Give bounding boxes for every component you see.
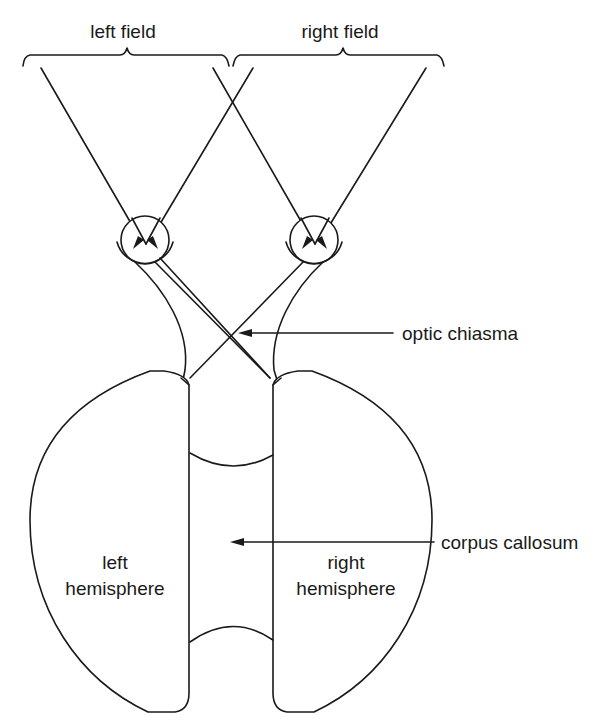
arrowhead-icon xyxy=(238,329,252,337)
left-hemisphere xyxy=(30,371,189,712)
arrowhead-icon xyxy=(230,538,244,546)
optic-chiasma-label: optic chiasma xyxy=(402,323,519,344)
diagram-canvas: left field right field xyxy=(0,0,616,726)
left-hemisphere-label-line2: hemisphere xyxy=(65,578,164,599)
ray-right-field-to-right-eye xyxy=(318,68,426,244)
right-optic-tract-outer xyxy=(274,262,323,380)
right-field-label: right field xyxy=(301,21,378,42)
right-hemisphere-label-line2: hemisphere xyxy=(296,578,395,599)
corpus-callosum-top-arc xyxy=(190,453,273,466)
ray-right-field-to-left-eye xyxy=(148,68,253,244)
left-optic-tract-crossing xyxy=(153,260,270,378)
left-field-brace xyxy=(23,48,229,66)
ray-left-field-to-left-eye xyxy=(41,68,143,244)
left-eye xyxy=(117,216,173,264)
ray-left-field-to-right-eye xyxy=(213,68,314,244)
right-eye xyxy=(286,216,342,264)
left-field-label: left field xyxy=(90,21,155,42)
corpus-callosum-label: corpus callosum xyxy=(441,532,578,553)
left-optic-tract-outer xyxy=(135,262,186,380)
corpus-callosum-bottom-arc xyxy=(190,626,273,642)
right-optic-tract-crossing xyxy=(190,260,305,378)
right-hemisphere-label-line1: right xyxy=(328,552,366,573)
left-hemisphere-label-line1: left xyxy=(102,552,128,573)
right-field-brace xyxy=(233,48,444,66)
